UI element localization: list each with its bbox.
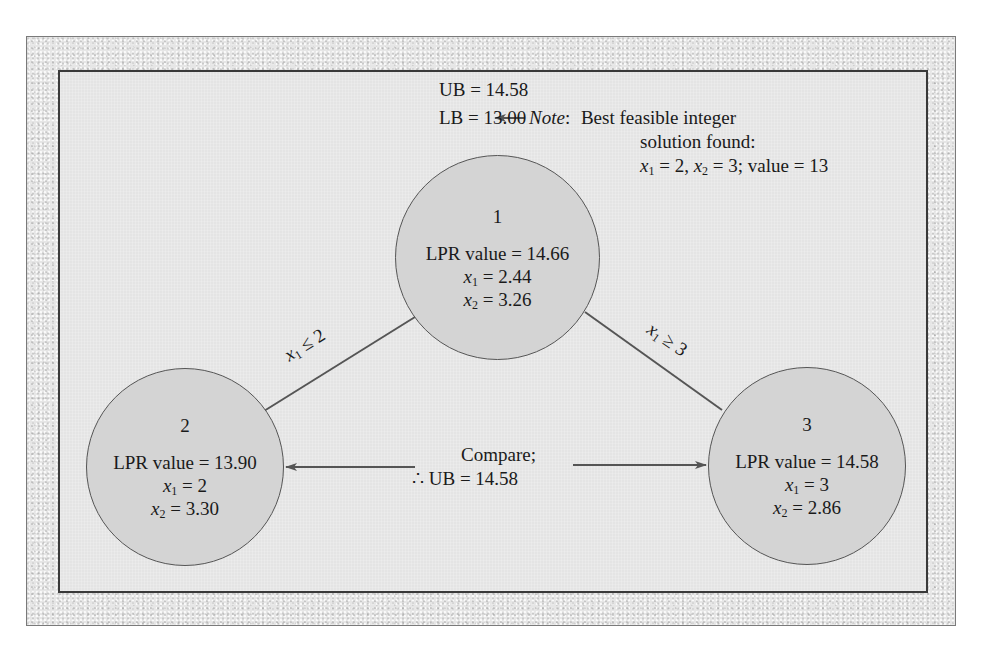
node-number: 2 [180,414,190,437]
compare-label: Compare; [461,443,536,466]
node-number: 1 [493,205,503,228]
node-x2-value: x2 = 2.86 [773,496,841,519]
node-x1-value: x1 = 3 [785,473,829,496]
node-lpr-value: LPR value = 14.58 [735,450,879,473]
node-x2-value: x2 = 3.26 [464,288,532,311]
note-line-2: solution found: [640,130,756,153]
node-x1-value: x1 = 2.44 [464,265,532,288]
note-annotation: Note: Best feasible integer [529,106,736,129]
node-lpr-value: LPR value = 13.90 [113,451,257,474]
note-label: Note [529,107,565,128]
compare-result-label: ∴ UB = 14.58 [412,467,518,490]
node-x1-value: x1 = 2 [163,474,207,497]
node-lpr-value: LPR value = 14.66 [426,242,570,265]
node-x2-value: x2 = 3.30 [151,497,219,520]
edge-1-to-2 [264,317,415,411]
tree-node-3[interactable]: 3 LPR value = 14.58 x1 = 3 x2 = 2.86 [708,367,906,565]
node-number: 3 [802,413,812,436]
tree-node-2[interactable]: 2 LPR value = 13.90 x1 = 2 x2 = 3.30 [86,368,284,566]
upper-bound-label: UB = 14.58 [439,78,528,101]
note-line-3: x1 = 2, x2 = 3; value = 13 [640,154,828,177]
lower-bound-label: LB = 13.00 [439,106,526,129]
tree-node-1[interactable]: 1 LPR value = 14.66 x1 = 2.44 x2 = 3.26 [395,155,600,360]
note-line-1: Best feasible integer [581,107,736,128]
